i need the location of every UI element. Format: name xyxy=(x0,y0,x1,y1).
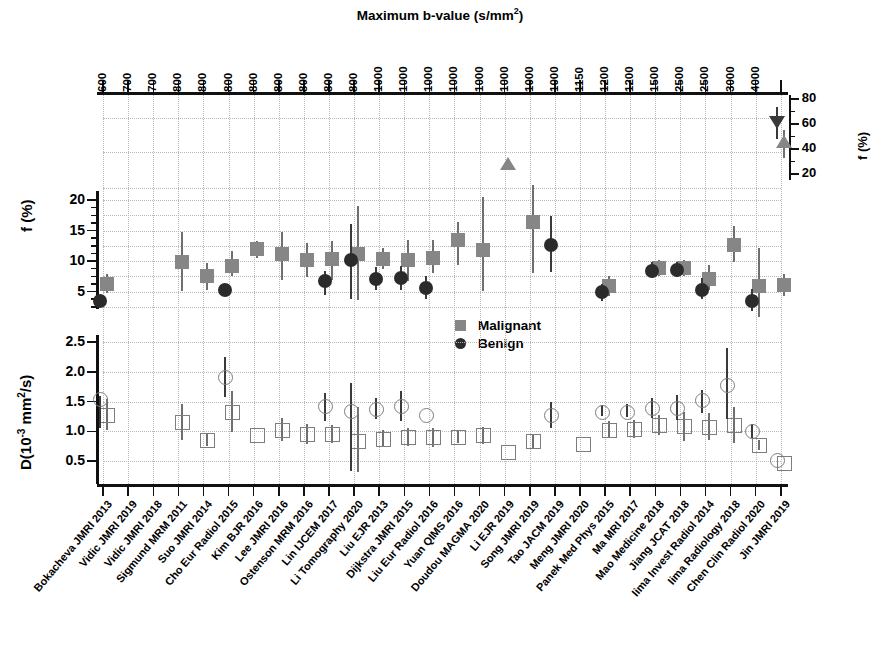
top-tick-label: 1200 xyxy=(623,66,635,92)
y-axis-label-d-main: D(10 xyxy=(17,437,34,470)
top-axis-tick xyxy=(780,80,782,92)
top-tick-label: 1000 xyxy=(473,66,485,92)
d-axis-tick-label: 0.5 xyxy=(41,452,85,468)
malignant-marker-open xyxy=(225,405,240,420)
malignant-marker-open xyxy=(576,437,591,452)
error-bar xyxy=(532,185,534,272)
f-axis-major-tick xyxy=(87,230,98,232)
top-tick-label: 1000 xyxy=(422,66,434,92)
inset-axis-major-tick xyxy=(789,173,799,175)
bottom-axis-tick xyxy=(504,485,506,496)
malignant-marker-open xyxy=(376,432,391,447)
f-axis-minor-tick xyxy=(91,283,98,285)
top-tick-label: 800 xyxy=(247,73,259,92)
top-tick-label: 1500 xyxy=(648,66,660,92)
bottom-axis-tick xyxy=(529,485,531,496)
gridline-vertical xyxy=(454,92,456,484)
f-axis-major-tick xyxy=(87,291,98,293)
f-axis-minor-tick xyxy=(91,268,98,270)
benign-marker-open xyxy=(720,378,735,393)
benign-marker-open xyxy=(595,405,610,420)
malignant-marker xyxy=(727,238,741,252)
y-axis-label-d-sup: -3 xyxy=(16,429,27,438)
malignant-marker-open xyxy=(100,408,115,423)
malignant-marker xyxy=(100,277,114,291)
legend: Malignant Benign xyxy=(455,316,541,352)
d-axis-tick-label: 2.5 xyxy=(41,333,85,349)
malignant-marker-open xyxy=(401,430,416,445)
top-tick-label: 2500 xyxy=(698,66,710,92)
top-tick-label: 700 xyxy=(121,73,133,92)
top-tick-label: 1000 xyxy=(523,66,535,92)
bottom-axis-tick xyxy=(579,485,581,496)
gridline-horizontal xyxy=(103,292,781,294)
f-axis-minor-tick xyxy=(91,207,98,209)
top-tick-label: 800 xyxy=(347,73,359,92)
malignant-marker xyxy=(250,242,264,256)
malignant-marker-open xyxy=(727,418,742,433)
bottom-axis-tick xyxy=(203,485,205,496)
top-tick-label: 600 xyxy=(96,73,108,92)
d-axis-tick-label: 1.0 xyxy=(41,422,85,438)
malignant-marker xyxy=(526,215,540,229)
top-axis-line xyxy=(97,92,788,95)
benign-marker-open xyxy=(620,405,635,420)
bottom-axis-tick xyxy=(604,485,606,496)
malignant-marker-open xyxy=(752,438,767,453)
gridline-horizontal xyxy=(103,200,781,202)
malignant-marker-open xyxy=(175,415,190,430)
malignant-marker-open xyxy=(275,423,290,438)
gridline-vertical xyxy=(505,92,507,484)
malignant-marker-triangle-up xyxy=(776,135,792,148)
benign-marker-open xyxy=(645,401,660,416)
top-tick-label: 1150 xyxy=(573,67,585,92)
gridline-horizontal xyxy=(103,461,781,463)
d-axis-major-tick xyxy=(87,341,98,343)
top-tick-label: 2500 xyxy=(673,66,685,92)
inset-axis-minor-tick xyxy=(789,111,795,113)
f-axis-tick-label: 20 xyxy=(45,191,85,207)
malignant-marker-triangle-up xyxy=(500,157,516,170)
malignant-marker-open xyxy=(627,422,642,437)
malignant-marker xyxy=(300,253,314,267)
malignant-marker xyxy=(401,253,415,267)
benign-marker xyxy=(544,238,558,252)
gridline-horizontal xyxy=(103,215,781,217)
top-tick-label: 800 xyxy=(171,73,183,92)
malignant-marker xyxy=(752,279,766,293)
gridline-horizontal xyxy=(103,231,781,233)
malignant-marker xyxy=(451,233,465,247)
gridline-horizontal xyxy=(103,188,781,190)
top-tick-label: 3000 xyxy=(724,66,736,92)
benign-marker xyxy=(670,263,684,277)
error-bar xyxy=(350,383,352,471)
malignant-marker-open xyxy=(300,427,315,442)
malignant-marker-open xyxy=(325,427,340,442)
benign-marker-open xyxy=(695,393,710,408)
bottom-axis-tick xyxy=(278,485,280,496)
top-tick-label: 1000 xyxy=(447,66,459,92)
malignant-marker-open xyxy=(526,434,541,449)
malignant-marker xyxy=(426,251,440,265)
malignant-marker xyxy=(225,259,239,273)
inset-axis-tick-label: 20 xyxy=(802,165,816,180)
top-tick-label: 800 xyxy=(272,73,284,92)
benign-marker-open xyxy=(419,408,434,423)
y-axis-label-inset-f: f (%) xyxy=(855,132,870,160)
y-axis-label-d: D(10-3 mm2/s) xyxy=(16,375,34,470)
bottom-axis-tick xyxy=(228,485,230,496)
f-axis-minor-tick xyxy=(91,253,98,255)
malignant-marker-open xyxy=(426,430,441,445)
y-axis-label-d-sup2: 2 xyxy=(16,392,27,398)
f-axis-major-tick xyxy=(87,199,98,201)
benign-marker xyxy=(695,283,709,297)
f-axis-major-tick xyxy=(87,260,98,262)
bottom-axis-tick xyxy=(328,485,330,496)
malignant-marker xyxy=(777,278,791,292)
gridline-horizontal xyxy=(103,342,781,344)
bottom-axis-tick xyxy=(353,485,355,496)
inset-axis-tick-label: 60 xyxy=(802,115,816,130)
gridline-vertical xyxy=(379,92,381,484)
bottom-axis-tick xyxy=(429,485,431,496)
bottom-axis-tick xyxy=(655,485,657,496)
